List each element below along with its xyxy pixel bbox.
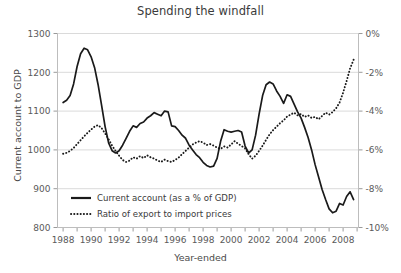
svg-text:1998: 1998	[192, 235, 215, 245]
svg-text:1300: 1300	[28, 29, 51, 39]
svg-text:1000: 1000	[28, 145, 51, 155]
series-line-0	[63, 48, 354, 213]
svg-text:-2%: -2%	[366, 68, 384, 78]
x-axis-ticks: 1988199019921994199619982000200220042006…	[52, 228, 357, 245]
svg-text:-6%: -6%	[366, 145, 384, 155]
svg-text:0%: 0%	[366, 29, 381, 39]
svg-text:800: 800	[33, 223, 50, 233]
data-series	[63, 48, 354, 213]
svg-text:2002: 2002	[248, 235, 271, 245]
svg-text:1990: 1990	[80, 235, 103, 245]
y-axis-ticks-right: 0%-2%-4%-6%-8%-10%	[359, 29, 390, 233]
svg-text:-4%: -4%	[366, 106, 384, 116]
svg-text:900: 900	[33, 184, 50, 194]
svg-text:1988: 1988	[52, 235, 75, 245]
svg-text:1992: 1992	[108, 235, 131, 245]
svg-text:-8%: -8%	[366, 184, 384, 194]
y-axis-ticks-left: 8009001000110012001300	[28, 29, 58, 233]
legend-label: Ratio of export to import prices	[97, 209, 232, 219]
svg-text:2000: 2000	[220, 235, 243, 245]
svg-text:2004: 2004	[276, 235, 299, 245]
svg-text:1994: 1994	[136, 235, 159, 245]
svg-text:1200: 1200	[28, 68, 51, 78]
svg-text:2006: 2006	[304, 235, 327, 245]
chart-container: Spending the windfall Current account to…	[0, 0, 401, 273]
svg-text:1996: 1996	[164, 235, 187, 245]
svg-text:-10%: -10%	[366, 223, 390, 233]
chart-legend: Current account (as a % of GDP)Ratio of …	[71, 193, 237, 219]
svg-text:2008: 2008	[332, 235, 355, 245]
svg-text:1100: 1100	[28, 106, 51, 116]
plot-area: 8009001000110012001300 0%-2%-4%-6%-8%-10…	[0, 0, 401, 273]
legend-label: Current account (as a % of GDP)	[97, 193, 237, 203]
